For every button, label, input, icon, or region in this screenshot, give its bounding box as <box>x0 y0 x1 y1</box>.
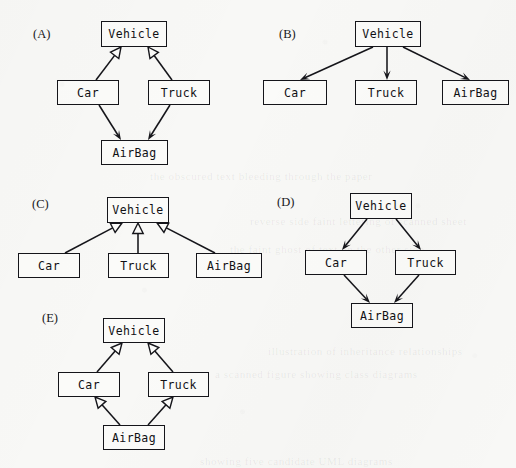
edge-truck-generalizes-vehicle <box>155 351 173 372</box>
diagram-e-edges <box>0 0 516 468</box>
class-box-truck: Truck <box>148 372 209 397</box>
class-box-airbag: AirBag <box>103 425 165 450</box>
edge-airbag-generalizes-truck <box>148 405 166 425</box>
diagram-label-e: (E) <box>42 311 58 326</box>
diagram-e: (E)VehicleCarTruckAirBag <box>0 0 516 468</box>
edge-airbag-generalizes-car <box>102 405 120 425</box>
figure-page: the obscured text bleeding through the p… <box>0 0 516 468</box>
edge-car-generalizes-vehicle <box>97 351 115 372</box>
class-box-car: Car <box>58 372 120 397</box>
class-box-vehicle: Vehicle <box>103 318 165 343</box>
